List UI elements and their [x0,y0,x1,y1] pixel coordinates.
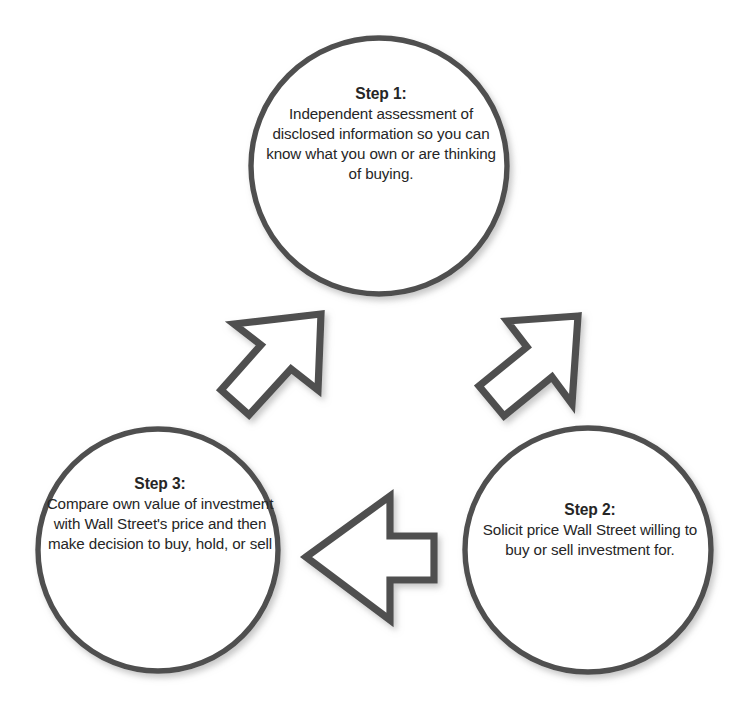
arrow-step1-to-step2-icon [479,316,578,416]
step3-body: Compare own value of investment with Wal… [44,494,276,553]
step1-label: Step 1: Independent assessment of disclo… [259,84,503,183]
arrow-step3-to-step1-icon [221,314,321,415]
step3-title: Step 3: [44,474,276,494]
arrow-step2-to-step3-icon [306,496,434,620]
step3-label: Step 3: Compare own value of investment … [44,474,276,554]
step2-body: Solicit price Wall Street willing to buy… [474,520,706,560]
step2-label: Step 2: Solicit price Wall Street willin… [474,500,706,560]
step1-body: Independent assessment of disclosed info… [259,104,503,183]
cycle-diagram: Step 1: Independent assessment of disclo… [0,0,748,723]
step2-title: Step 2: [474,500,706,520]
step1-title: Step 1: [259,84,503,104]
